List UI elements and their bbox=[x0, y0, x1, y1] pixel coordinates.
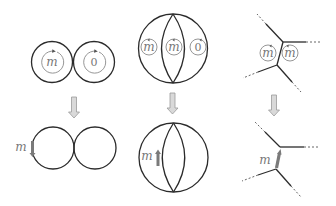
edge-downright bbox=[277, 65, 292, 82]
lens-right-arc bbox=[174, 123, 185, 192]
circle-left bbox=[32, 127, 74, 169]
loop-m-right: m bbox=[282, 45, 298, 62]
loop-label: m bbox=[46, 55, 57, 69]
loop-0-right: 0 bbox=[190, 39, 206, 56]
loop-label: m bbox=[284, 46, 295, 60]
panel-vertex-pair-top: m m bbox=[243, 14, 321, 92]
flow-arrow-1 bbox=[69, 97, 80, 118]
loop-label: m bbox=[143, 40, 154, 54]
thick-edge-arrow-up-icon bbox=[277, 149, 282, 155]
edge-label: m bbox=[259, 153, 270, 167]
diagram-canvas: m 0 m m 0 bbox=[0, 0, 336, 206]
thick-edge-arrow-down-icon bbox=[30, 141, 36, 157]
edge-upleft-dashed bbox=[254, 121, 265, 132]
edge-downleft-dashed bbox=[243, 72, 258, 78]
edge-downright bbox=[276, 169, 291, 186]
edge-label: m bbox=[141, 149, 152, 163]
thick-edge-arrow-up-icon bbox=[155, 150, 161, 167]
down-arrow-icon bbox=[269, 95, 280, 116]
edge-upleft-dashed bbox=[257, 14, 266, 24]
flow-arrow-2 bbox=[167, 93, 178, 114]
edge-label: m bbox=[15, 140, 26, 154]
panel-two-circles-bottom: m bbox=[15, 127, 116, 169]
loop-label: m bbox=[168, 40, 179, 54]
panel-sphere-lens-bottom: m bbox=[139, 123, 208, 192]
loop-m-center: m bbox=[166, 39, 182, 56]
panel-two-circles-top: m 0 bbox=[32, 42, 115, 83]
edge-upleft bbox=[265, 132, 280, 147]
edge-downleft bbox=[258, 65, 277, 72]
down-arrow-icon bbox=[69, 97, 80, 118]
loop-m: m bbox=[42, 51, 64, 73]
loop-m-left: m bbox=[141, 39, 157, 56]
edge-downright-dashed bbox=[291, 186, 301, 197]
panel-vertex-pair-bottom: m bbox=[242, 121, 320, 197]
edge-downleft bbox=[258, 169, 276, 175]
loop-label: m bbox=[262, 46, 273, 60]
lens-left-arc bbox=[162, 123, 173, 192]
circle-right bbox=[74, 127, 116, 169]
loop-0: 0 bbox=[84, 51, 106, 73]
down-arrow-icon bbox=[167, 93, 178, 114]
edge-upleft bbox=[266, 24, 283, 42]
loop-label: 0 bbox=[195, 41, 202, 54]
edge-downleft-dashed bbox=[242, 175, 258, 181]
flow-arrow-3 bbox=[269, 95, 280, 116]
thick-internal-edge bbox=[277, 153, 280, 168]
edge-downright-dashed bbox=[292, 82, 301, 92]
panel-sphere-lens-top: m m 0 bbox=[139, 14, 208, 83]
loop-label: 0 bbox=[91, 56, 98, 69]
loop-m-left: m bbox=[260, 45, 276, 62]
